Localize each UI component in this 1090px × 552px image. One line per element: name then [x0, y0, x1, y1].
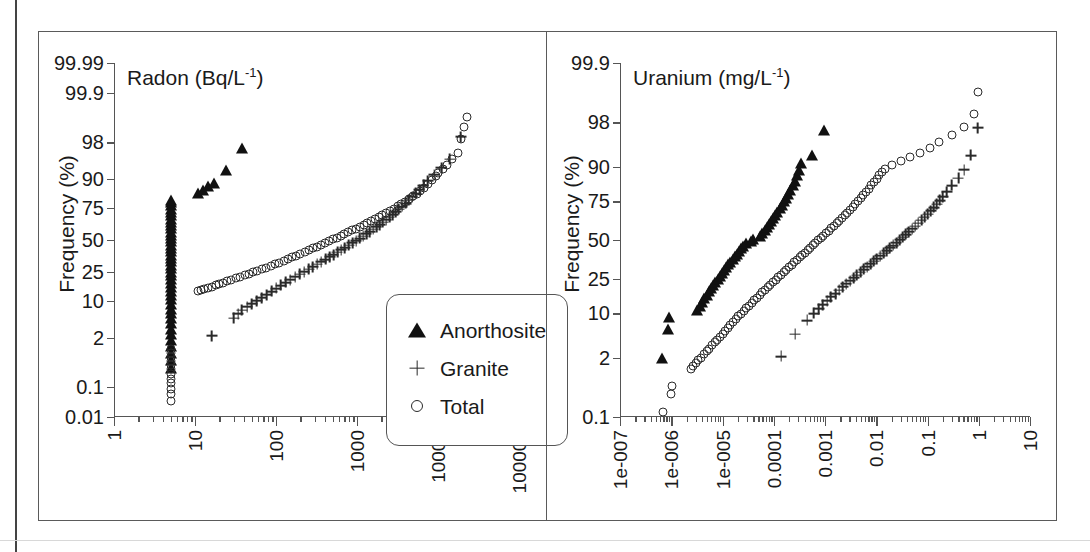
data-point — [443, 161, 452, 170]
data-point — [761, 285, 770, 294]
x-tick-minor — [1015, 417, 1016, 422]
x-tick-minor — [353, 417, 354, 422]
data-point — [830, 221, 839, 230]
data-point — [166, 397, 175, 406]
x-tick-major — [825, 417, 826, 426]
data-point — [218, 278, 227, 287]
data-point — [367, 217, 376, 226]
y-tick-label: 90 — [82, 169, 104, 189]
data-point — [696, 353, 705, 362]
filled-triangle-icon — [405, 319, 429, 341]
y-tick — [613, 279, 620, 280]
x-tick-minor — [1019, 417, 1020, 422]
data-point — [925, 143, 934, 152]
y-tick-label: 25 — [588, 269, 610, 289]
data-point — [332, 233, 341, 242]
x-tick-minor — [381, 417, 382, 422]
x-tick-minor — [268, 417, 269, 422]
data-point — [969, 110, 978, 119]
x-tick-minor — [344, 417, 345, 422]
x-tick-minor — [1022, 417, 1023, 422]
data-point — [715, 332, 724, 341]
y-tick — [613, 201, 620, 202]
data-point — [370, 215, 379, 224]
data-point — [283, 255, 292, 264]
data-point — [718, 329, 727, 338]
data-point — [814, 236, 823, 245]
legend-label-granite: Granite — [440, 358, 509, 379]
x-tick-minor — [171, 417, 172, 422]
legend-label-total: Total — [440, 396, 484, 417]
data-point — [859, 190, 868, 199]
legend-label-anorthosite: Anorthosite — [440, 320, 546, 341]
data-point — [431, 172, 440, 181]
y-tick — [107, 338, 114, 339]
data-point — [348, 226, 357, 235]
data-point — [427, 176, 436, 185]
data-point — [248, 268, 257, 277]
x-tick-minor — [177, 417, 178, 422]
data-point — [207, 282, 216, 291]
x-tick-label: 1e-007 — [611, 430, 630, 489]
data-point — [389, 204, 398, 213]
x-tick-minor — [300, 417, 301, 422]
data-point — [742, 304, 751, 313]
x-tick-major — [276, 417, 277, 426]
data-point — [896, 157, 905, 166]
x-tick-minor — [747, 417, 748, 422]
legend-entry-anorthosite: Anorthosite — [405, 319, 546, 341]
data-point — [861, 187, 870, 196]
y-tick — [613, 122, 620, 123]
legend-entry-granite: Granite — [405, 357, 509, 379]
x-tick-minor — [644, 417, 645, 422]
data-point — [166, 369, 175, 378]
data-point — [275, 258, 284, 267]
figure-root: Radon (Bq/L-1) Frequency (%) 99.9999.998… — [0, 0, 1090, 552]
y-tick-label: 25 — [82, 262, 104, 282]
x-tick-minor — [874, 417, 875, 422]
data-point — [236, 272, 245, 281]
data-point — [166, 361, 175, 370]
x-tick-minor — [1003, 417, 1004, 422]
x-tick-minor — [994, 417, 995, 422]
data-point — [811, 238, 820, 247]
data-point — [726, 320, 735, 329]
data-point — [838, 213, 847, 222]
data-point — [782, 265, 791, 274]
data-point — [223, 277, 232, 286]
data-point — [292, 251, 301, 260]
x-tick-minor — [907, 417, 908, 422]
plus-icon — [405, 357, 429, 379]
data-point — [204, 283, 213, 292]
y-tick-label: 99.9 — [571, 53, 610, 73]
data-point — [774, 273, 783, 282]
y-tick-label: 99.99 — [54, 53, 104, 73]
data-point — [699, 350, 708, 359]
data-point — [872, 174, 881, 183]
x-tick-minor — [976, 417, 977, 422]
data-point — [803, 246, 812, 255]
x-tick-label: 1000 — [348, 430, 367, 472]
panel-uranium: Uranium (mg/L-1) Frequency (%) 99.998907… — [548, 32, 1058, 522]
panel-radon: Radon (Bq/L-1) Frequency (%) 99.9999.998… — [39, 32, 547, 522]
data-point — [320, 238, 329, 247]
x-tick-minor — [766, 417, 767, 422]
y-tick-label: 2 — [599, 348, 610, 368]
data-point — [848, 202, 857, 211]
data-point — [843, 208, 852, 217]
data-point — [832, 219, 841, 228]
data-point — [707, 341, 716, 350]
y-tick-label: 50 — [588, 230, 610, 250]
x-tick-minor — [823, 417, 824, 422]
data-point — [438, 165, 447, 174]
data-point — [947, 131, 956, 140]
y-tick-label: 98 — [82, 132, 104, 152]
data-point — [808, 241, 817, 250]
data-point — [166, 357, 175, 366]
y-tick-label: 90 — [588, 157, 610, 177]
data-point — [420, 183, 429, 192]
x-tick-label: 1e-005 — [713, 430, 732, 489]
x-tick-minor — [762, 417, 763, 422]
data-point — [705, 344, 714, 353]
data-point — [194, 287, 203, 296]
